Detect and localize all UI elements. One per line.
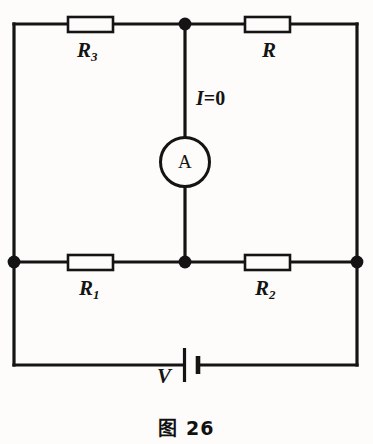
junction-mid-right bbox=[351, 256, 364, 269]
junction-mid-center bbox=[179, 256, 192, 269]
junction-mid-left bbox=[8, 256, 21, 269]
resistor-label-r3: R3 bbox=[77, 40, 98, 61]
figure-container: R3 R I=0 A R1 R2 V 图 26 bbox=[0, 0, 373, 444]
ammeter-label: A bbox=[178, 152, 192, 171]
resistor-box-r1 bbox=[68, 255, 113, 270]
resistor-label-r2: R2 bbox=[255, 278, 276, 299]
junction-top-center bbox=[179, 18, 192, 31]
resistor-box-r2 bbox=[245, 255, 290, 270]
battery-label: V bbox=[157, 366, 171, 387]
bridge-current-label: I=0 bbox=[196, 88, 225, 108]
figure-caption: 图 26 bbox=[0, 413, 373, 440]
circuit-schematic bbox=[0, 0, 373, 444]
resistor-label-r1: R1 bbox=[79, 278, 100, 299]
resistor-label-r: R bbox=[262, 40, 276, 61]
resistor-box-r3 bbox=[68, 17, 113, 32]
resistor-box-r bbox=[245, 17, 290, 32]
